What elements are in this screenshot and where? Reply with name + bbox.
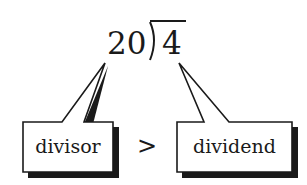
divisor-number: 20 — [107, 28, 146, 59]
division-bracket — [150, 22, 154, 60]
divisor-label: divisor — [23, 137, 113, 156]
dividend-number: 4 — [162, 28, 182, 59]
division-diagram: 20 4 divisor > dividend — [0, 0, 307, 185]
greater-than-symbol: > — [137, 134, 157, 158]
dividend-label: dividend — [177, 137, 292, 156]
